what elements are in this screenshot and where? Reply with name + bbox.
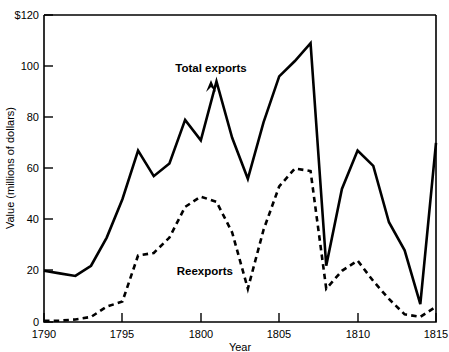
annotation-reexports: Reexports [177,265,233,277]
x-axis-ticks [44,313,436,322]
x-tick-label-1790: 1790 [32,328,56,340]
y-tick-label-100: 100 [21,60,39,72]
x-axis-tick-labels: 1790 1795 1800 1805 1810 1815 [32,328,448,340]
y-tick-label-80: 80 [27,111,39,123]
y-axis-ticks [44,15,53,322]
x-tick-label-1805: 1805 [267,328,291,340]
x-tick-label-1800: 1800 [189,328,213,340]
y-tick-label-20: 20 [27,264,39,276]
x-tick-label-1810: 1810 [346,328,370,340]
y-tick-label-120: $120 [15,9,39,21]
annotation-total-exports: Total exports [175,62,246,74]
y-tick-label-40: 40 [27,213,39,225]
y-axis-title: Value (millions of dollars) [4,107,16,229]
y-axis-tick-labels: $120 100 80 60 40 20 0 [15,9,39,328]
chart-canvas: $120 100 80 60 40 20 0 1790 1795 1800 18… [0,0,449,352]
x-tick-label-1815: 1815 [424,328,448,340]
x-axis-title: Year [229,341,252,352]
y-tick-label-60: 60 [27,162,39,174]
export-value-line-chart: $120 100 80 60 40 20 0 1790 1795 1800 18… [0,0,449,352]
y-tick-label-0: 0 [33,316,39,328]
x-tick-label-1795: 1795 [110,328,134,340]
series-line-total-exports [44,43,436,304]
